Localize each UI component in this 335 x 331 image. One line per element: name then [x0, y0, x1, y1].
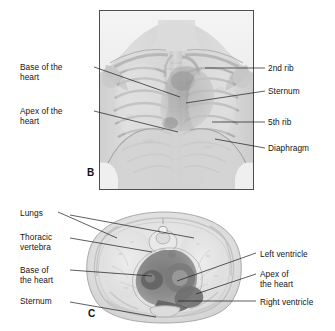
panel-b-label-base-of-the-heart: Base of the heart: [20, 63, 92, 82]
panel-c-label-left-ventricle: Left ventricle: [260, 250, 334, 260]
panel-b-label-2nd-rib: 2nd rib: [268, 64, 332, 74]
panel-b-label-5th-rib: 5th rib: [268, 118, 332, 128]
panel-c-label-apex-of-the-heart: Apex of the heart: [260, 270, 334, 289]
panel-b-label-diaphragm: Diaphragm: [268, 144, 332, 154]
anatomy-figure: B Base of the heart Apex of the heart 2n…: [0, 0, 335, 331]
panel-c-label-thoracic-vertebra: Thoracic vertebra: [20, 233, 84, 252]
panel-c-label-sternum: Sternum: [20, 297, 84, 307]
panel-b-image-frame: [99, 10, 254, 190]
panel-c-label-lungs: Lungs: [20, 209, 84, 219]
panel-b-label-sternum: Sternum: [268, 87, 332, 97]
thorax-cross-section-image: [80, 208, 248, 326]
chest-radiograph-image: [100, 11, 253, 189]
panel-b-letter: B: [87, 167, 94, 178]
panel-b-label-apex-of-the-heart: Apex of the heart: [20, 107, 92, 126]
panel-c-label-base-of-the-heart: Base of the heart: [20, 266, 84, 285]
panel-c-label-right-ventricle: Right ventricle: [260, 298, 334, 308]
panel-c-letter: C: [88, 308, 95, 319]
